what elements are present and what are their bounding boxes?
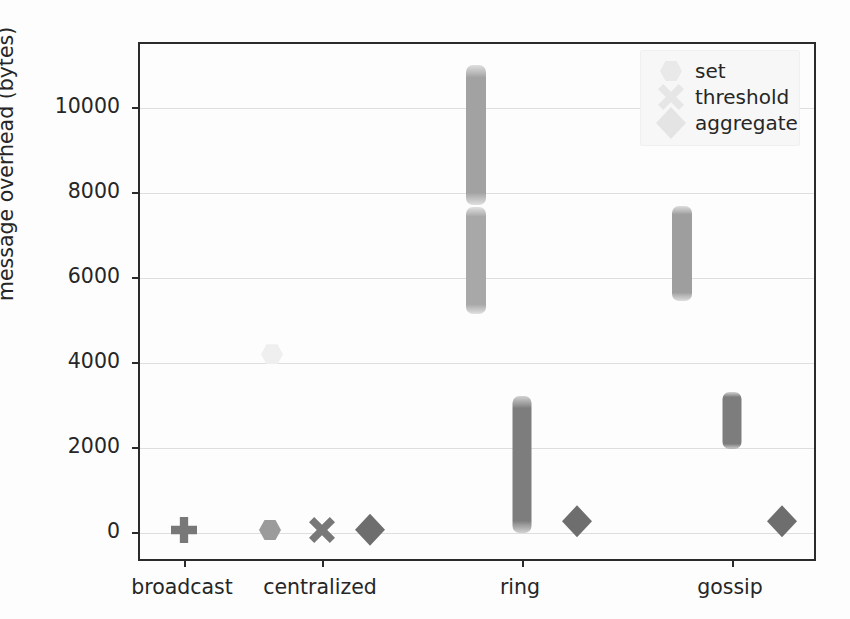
data-strip-ring-threshold: [513, 396, 532, 533]
x-tick-mark: [322, 560, 324, 567]
data-marker-centralized-aggregate: [355, 514, 385, 546]
x-tick-mark: [184, 560, 186, 567]
y-tick-label: 8000: [0, 179, 120, 203]
x-tick-label-centralized: centralized: [263, 575, 377, 599]
x-tick-mark: [522, 560, 524, 567]
data-marker-centralized-set-high: [261, 344, 283, 364]
y-tick-label: 10000: [0, 94, 120, 118]
gridline: [140, 448, 814, 449]
y-tick-mark: [132, 532, 139, 534]
aggregate-diamond-icon: [651, 111, 691, 135]
figure-canvas: message overhead (bytes) 020004000600080…: [0, 0, 850, 619]
data-strip-ring-set-upper: [466, 65, 486, 205]
set-hexagon-icon: [651, 59, 691, 83]
legend-label-set: set: [695, 59, 726, 83]
data-marker-centralized-threshold: [309, 517, 335, 543]
x-tick-mark: [732, 560, 734, 567]
x-tick-label-gossip: gossip: [697, 575, 763, 599]
y-tick-label: 6000: [0, 264, 120, 288]
x-tick-label-broadcast: broadcast: [131, 575, 233, 599]
y-tick-mark: [132, 107, 139, 109]
data-strip-ring-set-lower: [466, 207, 486, 315]
gridline: [140, 533, 814, 534]
legend-item-set[interactable]: set: [651, 58, 789, 84]
y-tick-label: 4000: [0, 349, 120, 373]
data-strip-gossip-set: [672, 206, 692, 302]
legend-item-threshold[interactable]: threshold: [651, 84, 789, 110]
y-tick-label: 2000: [0, 434, 120, 458]
gridline: [140, 363, 814, 364]
y-tick-mark: [132, 277, 139, 279]
threshold-x-icon: [651, 85, 691, 109]
data-marker-centralized-set: [259, 520, 281, 540]
legend-label-aggregate: aggregate: [695, 111, 798, 135]
y-tick-mark: [132, 192, 139, 194]
data-marker-broadcast-set-threshold-aggregate-overlap: [171, 517, 197, 543]
legend-label-threshold: threshold: [695, 85, 789, 109]
y-tick-mark: [132, 362, 139, 364]
x-tick-label-ring: ring: [500, 575, 540, 599]
y-tick-label: 0: [0, 519, 120, 543]
legend-item-aggregate[interactable]: aggregate: [651, 110, 789, 136]
data-strip-gossip-threshold: [723, 392, 742, 449]
legend: set threshold aggregate: [640, 50, 800, 146]
y-axis-title: message overhead (bytes): [0, 27, 18, 301]
y-tick-mark: [132, 447, 139, 449]
